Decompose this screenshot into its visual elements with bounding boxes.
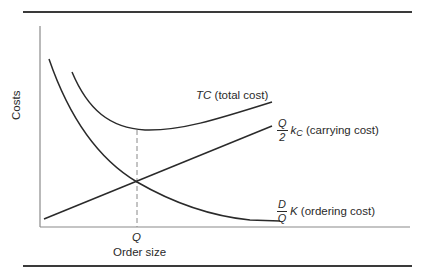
ordering-cost-label: D Q K (ordering cost) (277, 199, 375, 224)
carrying-cost-fraction: Q 2 (277, 118, 288, 143)
carrying-cost-subscript: C (296, 128, 303, 138)
carrying-cost-label: Q 2 kC (carrying cost) (277, 118, 379, 143)
y-axis-label: Costs (10, 91, 22, 120)
ordering-cost-symbol: K (290, 205, 298, 217)
ordering-cost-curve (49, 59, 280, 221)
carrying-cost-line (44, 126, 272, 219)
total-cost-label: TC (total cost) (196, 90, 268, 102)
ordering-cost-description: (ordering cost) (301, 205, 375, 217)
ordering-cost-fraction: D Q (277, 199, 287, 224)
carrying-cost-description: (carrying cost) (306, 124, 379, 136)
total-cost-symbol: TC (196, 89, 211, 101)
x-marker-q-label: Q (132, 232, 141, 244)
x-axis-label: Order size (113, 247, 166, 259)
total-cost-description: (total cost) (215, 89, 269, 101)
